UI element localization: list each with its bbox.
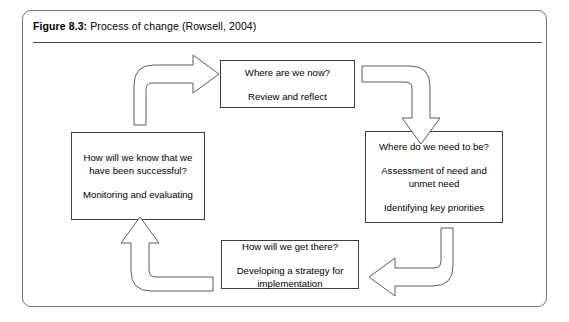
arrow-bottom-to-left-icon [108,227,213,293]
arrow-left-to-top-icon [133,63,223,125]
process-box-how-will-we-get-there: How will we get there? Developing a stra… [221,240,359,289]
process-box-where-do-we-need-to-be: Where do we need to be? Assessment of ne… [365,131,503,223]
process-box-how-will-we-know: How will we know that we have been succe… [71,132,205,220]
process-box-where-are-we-now: Where are we now? Review and reflect [220,60,355,108]
box-line: Developing a strategy for implementation [227,264,353,290]
figure-container: Figure 8.3: Process of change (Rowsell, … [0,0,569,322]
box-line: Review and reflect [248,90,327,103]
figure-caption: Figure 8.3: Process of change (Rowsell, … [33,19,256,33]
figure-caption-text: Process of change (Rowsell, 2004) [87,20,256,32]
box-line: Identifying key priorities [384,201,484,214]
box-line: How will we get there? [242,240,338,253]
caption-divider [33,42,542,43]
arrow-top-to-right-icon [362,64,438,132]
box-line: How will we know that we have been succe… [77,151,199,177]
box-line: Where are we now? [245,66,330,79]
box-line: Monitoring and evaluating [83,188,193,201]
box-line: Where do we need to be? [379,140,489,153]
arrow-right-to-bottom-icon [368,228,466,290]
figure-caption-label: Figure 8.3: [33,20,87,32]
box-line: Assessment of need and unmet need [371,164,497,190]
